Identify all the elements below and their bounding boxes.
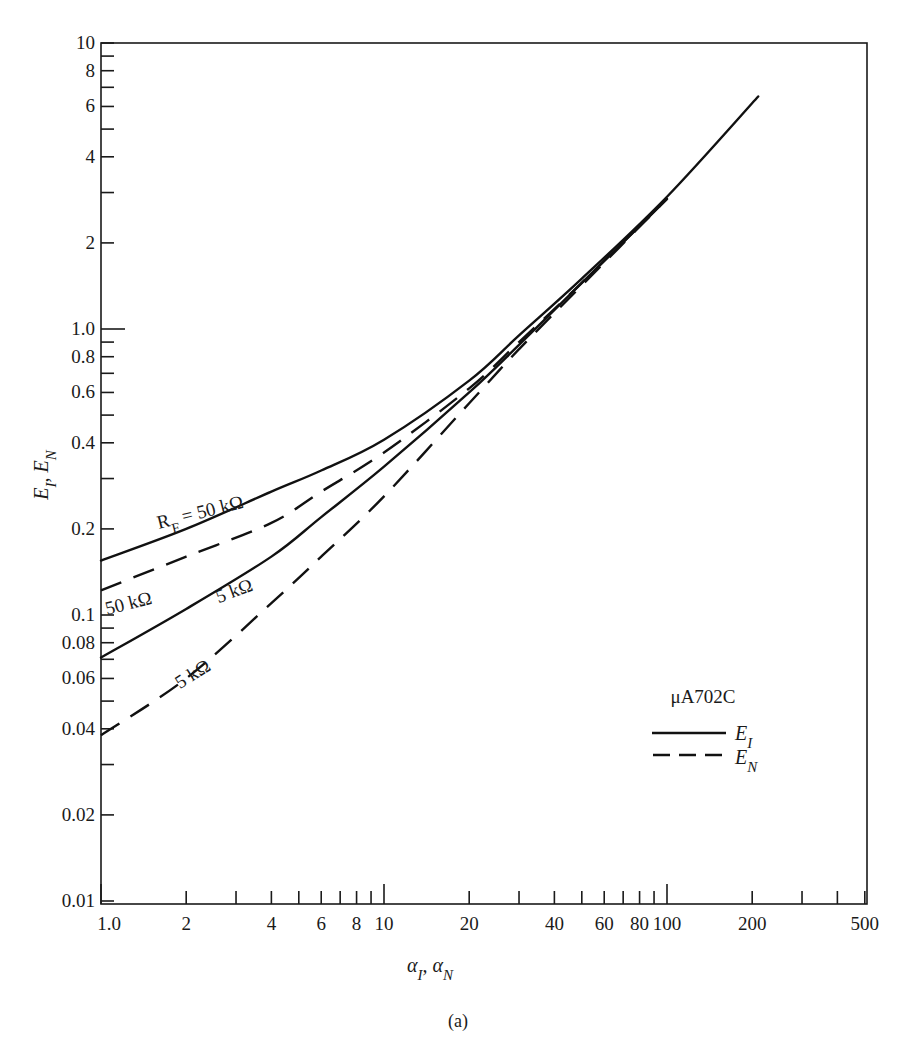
x-axis-title: αI, αN <box>407 954 454 983</box>
y-tick-label: 4 <box>86 146 96 167</box>
curve-label-3: 5 kΩ <box>171 655 214 693</box>
x-tick-label: 4 <box>267 913 277 934</box>
x-tick-label: 8 <box>352 913 362 934</box>
data-series <box>101 97 758 736</box>
x-tick-label: 80 <box>630 913 649 934</box>
y-tick-label: 0.08 <box>62 632 95 653</box>
y-axis-ticks <box>101 43 125 901</box>
figure-caption: (a) <box>448 1011 468 1032</box>
y-tick-label: 0.8 <box>71 346 95 367</box>
series-line-1 <box>101 199 667 590</box>
curve-label-1: 50 kΩ <box>103 587 154 619</box>
x-tick-label: 6 <box>316 913 326 934</box>
y-tick-label: 2 <box>86 232 96 253</box>
curve-annotations: RF = 50 kΩ50 kΩ5 kΩ5 kΩ <box>103 491 256 693</box>
x-tick-label: 10 <box>375 913 394 934</box>
x-tick-label: 2 <box>181 913 191 934</box>
y-tick-label: 6 <box>86 95 96 116</box>
x-tick-label: 500 <box>851 913 880 934</box>
series-line-2 <box>101 199 667 658</box>
y-axis-tick-labels: 0.010.020.040.060.080.10.20.40.60.81.024… <box>62 32 96 911</box>
y-axis-title: EI, EN <box>30 449 59 500</box>
y-tick-label: 0.04 <box>62 718 96 739</box>
curve-label-2: 5 kΩ <box>213 574 256 607</box>
x-tick-label: 100 <box>653 913 682 934</box>
legend-title: μA702C <box>670 686 735 707</box>
x-tick-label: 60 <box>595 913 614 934</box>
y-tick-label: 0.1 <box>71 604 95 625</box>
legend: μA702C EI EN <box>652 686 758 775</box>
curve-label-0: RF = 50 kΩ <box>155 491 247 540</box>
y-tick-label: 0.01 <box>62 890 95 911</box>
series-line-0 <box>101 97 758 561</box>
x-axis-tick-labels: 1.024681020406080100200500 <box>97 913 879 934</box>
x-tick-label: 1.0 <box>97 913 121 934</box>
legend-label-en: EN <box>734 746 758 775</box>
y-tick-label: 0.06 <box>62 667 95 688</box>
y-tick-label: 0.02 <box>62 804 95 825</box>
y-tick-label: 10 <box>76 32 95 53</box>
y-tick-label: 0.6 <box>71 381 95 402</box>
x-tick-label: 40 <box>545 913 564 934</box>
y-tick-label: 0.2 <box>71 518 95 539</box>
y-tick-label: 0.4 <box>71 432 95 453</box>
x-axis-ticks <box>101 884 865 904</box>
x-tick-label: 200 <box>738 913 767 934</box>
y-tick-label: 8 <box>86 60 96 81</box>
chart-canvas: 1.024681020406080100200500 0.010.020.040… <box>0 0 902 1057</box>
y-tick-label: 1.0 <box>71 318 95 339</box>
x-tick-label: 20 <box>460 913 479 934</box>
